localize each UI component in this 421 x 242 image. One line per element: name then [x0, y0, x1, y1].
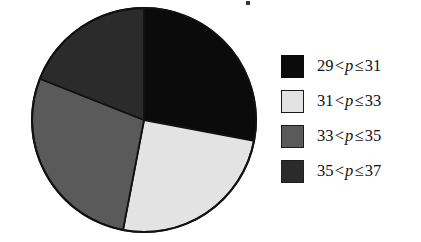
- legend-operator-left-2: <: [334, 126, 345, 145]
- legend-upper-bound-0: 31: [365, 56, 382, 75]
- legend-swatch-icon-2: [281, 125, 304, 148]
- legend-upper-bound-2: 35: [365, 126, 382, 145]
- legend-swatch-icon-3: [281, 160, 304, 183]
- pie-chart-svg: [28, 6, 260, 236]
- legend-operator-right-1: ≤: [353, 91, 364, 110]
- legend-item-3[interactable]: 35<p≤37: [281, 154, 417, 189]
- legend-operator-right-0: ≤: [353, 56, 364, 75]
- legend-operator-left-3: <: [334, 161, 345, 180]
- legend-item-label-3: 35<p≤37: [317, 163, 381, 180]
- legend-operator-left-1: <: [334, 91, 345, 110]
- legend-lower-bound-3: 35: [317, 161, 334, 180]
- legend-operator-right-3: ≤: [353, 161, 364, 180]
- pie-slice-group: [32, 8, 256, 232]
- legend-upper-bound-1: 33: [365, 91, 382, 110]
- legend-swatch-icon-0: [281, 55, 304, 78]
- legend-swatch-icon-1: [281, 90, 304, 113]
- legend-item-1[interactable]: 31<p≤33: [281, 84, 417, 119]
- legend-operator-right-2: ≤: [353, 126, 364, 145]
- pie-slice-0[interactable]: [144, 8, 256, 141]
- legend-lower-bound-1: 31: [317, 91, 334, 110]
- legend-item-0[interactable]: 29<p≤31: [281, 49, 417, 84]
- pie-slice-1[interactable]: [123, 120, 254, 232]
- pie-chart-plot-area: [28, 6, 260, 236]
- legend-upper-bound-3: 37: [365, 161, 382, 180]
- legend-operator-left-0: <: [334, 56, 345, 75]
- legend-lower-bound-0: 29: [317, 56, 334, 75]
- pie-chart-figure: 29<p≤31 31<p≤33 33<p≤35 35<p≤37: [0, 0, 421, 242]
- legend-item-label-0: 29<p≤31: [317, 58, 381, 75]
- legend-lower-bound-2: 33: [317, 126, 334, 145]
- legend-item-2[interactable]: 33<p≤35: [281, 119, 417, 154]
- scan-artifact-mark: [246, 1, 250, 5]
- legend-item-label-1: 31<p≤33: [317, 93, 381, 110]
- legend: 29<p≤31 31<p≤33 33<p≤35 35<p≤37: [281, 49, 417, 189]
- legend-item-label-2: 33<p≤35: [317, 128, 381, 145]
